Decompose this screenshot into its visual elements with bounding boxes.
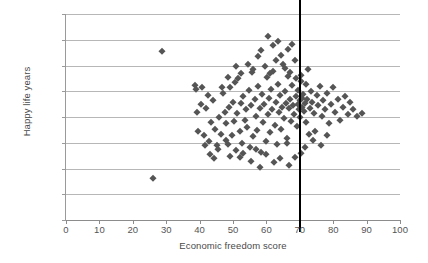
x-tick-label: 30	[151, 224, 181, 235]
x-tick-label: 0	[51, 224, 81, 235]
gridline	[66, 194, 400, 195]
gridline	[66, 14, 400, 15]
x-axis-title: Economic freedom score	[66, 240, 400, 251]
gridline	[66, 169, 400, 170]
gridline	[66, 40, 400, 41]
scatter-chart: Happy life years 0.0010.0020.0030.0040.0…	[0, 0, 428, 263]
y-tick	[62, 40, 66, 41]
y-tick	[62, 14, 66, 15]
x-tick-label: 10	[84, 224, 114, 235]
x-tick-label: 80	[318, 224, 348, 235]
y-tick	[62, 194, 66, 195]
gridline	[66, 91, 400, 92]
y-tick	[62, 143, 66, 144]
x-tick-label: 60	[251, 224, 281, 235]
x-tick-label: 90	[352, 224, 382, 235]
y-tick	[62, 169, 66, 170]
y-tick	[62, 91, 66, 92]
x-tick-label: 20	[118, 224, 148, 235]
y-axis-title: Happy life years	[21, 32, 32, 172]
vertical-reference-line	[299, 0, 301, 232]
plot-area	[66, 14, 400, 220]
gridline	[66, 143, 400, 144]
x-tick-label: 100	[385, 224, 415, 235]
x-tick-label: 40	[185, 224, 215, 235]
y-tick	[62, 66, 66, 67]
x-tick-label: 50	[218, 224, 248, 235]
y-tick	[62, 117, 66, 118]
x-tick-label: 70	[285, 224, 315, 235]
